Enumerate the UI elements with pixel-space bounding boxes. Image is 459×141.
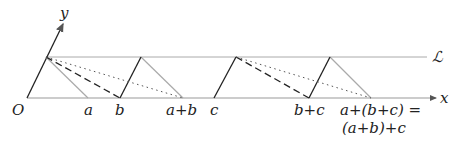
label-a: a (84, 101, 93, 119)
dashed-segment-b (46, 57, 120, 98)
gray-segment-a (46, 57, 88, 98)
associativity-diagram: y O x ℒ a b a+b c b+c a+(b+c) = (a+b)+c (0, 0, 459, 141)
dark-segment-c (214, 57, 236, 98)
dashed-segment-b-plus-c (236, 57, 309, 98)
label-b-plus-c: b+c (294, 101, 325, 119)
label-result-line1: a+(b+c) = (340, 101, 421, 119)
x-axis-label: x (440, 89, 449, 107)
dark-segment-b-plus-c (309, 57, 330, 98)
origin-label: O (12, 101, 24, 119)
dark-segment-b (120, 57, 141, 98)
label-b: b (115, 101, 125, 119)
line-L-label: ℒ (432, 48, 444, 66)
y-axis-label: y (59, 4, 69, 22)
label-result-line2: (a+b)+c (342, 119, 406, 137)
y-axis (27, 24, 63, 98)
label-c: c (210, 101, 219, 119)
gray-segment-result (330, 57, 371, 98)
label-a-plus-b: a+b (166, 101, 197, 119)
